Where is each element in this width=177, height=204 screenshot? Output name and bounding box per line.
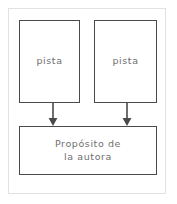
node-author-purpose-label-line2: la autora [64,151,112,162]
node-clue-right: pista [94,20,157,103]
node-author-purpose-label-line1: Propósito de [55,138,121,149]
arrow-right-head [123,118,132,126]
arrow-clue-left-to-purpose [49,103,58,126]
arrow-clue-right-to-purpose [123,103,132,126]
node-clue-right-label: pista [112,55,138,68]
node-clue-left: pista [19,20,80,103]
flow-diagram: pista pista Propósito dela autora [0,0,177,204]
node-clue-left-label: pista [36,55,62,68]
arrow-left-head [49,118,58,126]
node-author-purpose: Propósito dela autora [19,126,157,175]
node-author-purpose-label: Propósito dela autora [55,138,121,164]
scanned-page: pista pista Propósito dela autora [0,0,177,204]
